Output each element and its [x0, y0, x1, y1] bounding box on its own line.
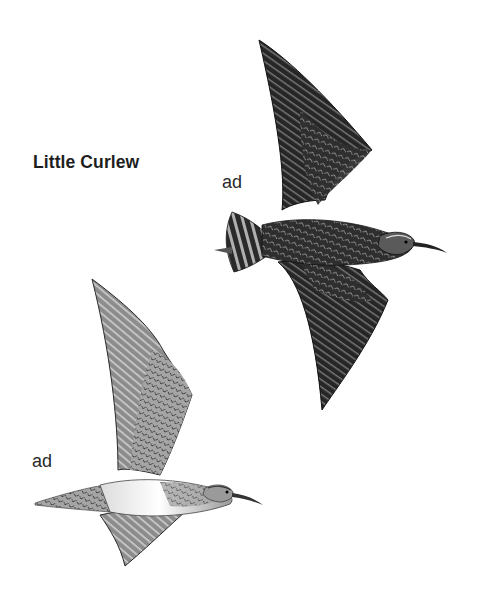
bill	[413, 242, 447, 253]
age-label-upperside: ad	[222, 172, 242, 193]
age-label-underside: ad	[32, 451, 52, 472]
illustration-plate: Little Curlew ad ad	[0, 0, 494, 612]
bird-underside	[35, 279, 263, 566]
bird-illustrations	[0, 0, 494, 612]
lower-wing	[100, 510, 185, 566]
bird-upperside	[214, 40, 447, 410]
tail	[35, 485, 110, 512]
bill	[232, 493, 263, 505]
species-title: Little Curlew	[33, 152, 139, 173]
